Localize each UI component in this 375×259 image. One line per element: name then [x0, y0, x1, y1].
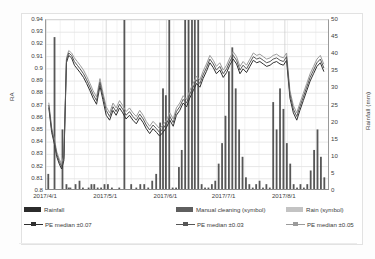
rainfall-bar: [107, 184, 109, 190]
series-line: [49, 55, 324, 169]
rainfall-bar: [214, 181, 216, 190]
rainfall-bar: [100, 188, 102, 190]
legend-item[interactable]: PE median ±0.07: [24, 221, 92, 228]
rainfall-bar: [289, 164, 291, 190]
y-tick-right: 10: [331, 151, 338, 158]
rainfall-bar: [123, 20, 125, 190]
y-tick-left: 0.85: [31, 124, 43, 131]
y-axis-title-left: RA: [8, 92, 15, 101]
legend-line-swatch: [24, 221, 43, 228]
y-tick-right: 15: [331, 134, 338, 141]
legend-line-swatch: [286, 221, 305, 228]
rainfall-bar: [238, 129, 240, 190]
rainfall-bar: [93, 184, 95, 190]
rainfall-bar: [88, 188, 90, 190]
rainfall-bar: [204, 188, 206, 190]
rainfall-bar: [165, 95, 167, 190]
rainfall-bar: [211, 184, 213, 190]
x-tick: 2017/8/1: [272, 192, 296, 199]
rainfall-bar: [279, 88, 281, 190]
y-tick-left: 0.9: [35, 63, 43, 70]
rainfall-bar: [276, 129, 278, 190]
rainfall-bar: [79, 181, 81, 190]
rainfall-bar: [310, 170, 312, 190]
rainfall-bar: [300, 184, 302, 190]
rainfall-bar: [313, 150, 315, 190]
rainfall-bar: [320, 157, 322, 190]
rainfall-bar: [283, 109, 285, 190]
y-tick-left: 0.81: [31, 173, 43, 180]
x-tick: 2017/6/1: [154, 192, 178, 199]
legend-item[interactable]: Rainfall: [24, 206, 64, 213]
y-tick-left: 0.83: [31, 149, 43, 156]
rainfall-bar: [172, 188, 174, 190]
rainfall-bar: [54, 37, 56, 190]
legend-item[interactable]: PE median ±0.05: [286, 221, 354, 228]
y-axis-ticks-left: 0.940.930.920.910.90.890.880.870.860.850…: [21, 18, 43, 190]
y-tick-left: 0.93: [31, 27, 43, 34]
rainfall-bar: [155, 174, 157, 190]
y-tick-left: 0.88: [31, 88, 43, 95]
rainfall-bar: [143, 184, 145, 190]
rainfall-bar: [262, 188, 264, 190]
rainfall-bar: [286, 143, 288, 190]
y-tick-right: 5: [331, 168, 334, 175]
rainfall-bar: [306, 184, 308, 190]
rainfall-bar: [296, 188, 298, 190]
rainfall-bar: [75, 184, 77, 190]
rainfall-bar: [255, 184, 257, 190]
y-tick-right: 0: [331, 186, 334, 193]
plot-canvas: [46, 20, 329, 190]
y-tick-left: 0.89: [31, 76, 43, 83]
rainfall-bar: [235, 88, 237, 190]
y-tick-left: 0.94: [31, 15, 43, 22]
y-axis-ticks-right: 50454035302520151050: [331, 18, 351, 190]
rainfall-bar: [194, 20, 196, 190]
rainfall-bar: [181, 150, 183, 190]
rainfall-bar: [151, 181, 153, 190]
legend-bar-swatch: [176, 207, 193, 212]
rainfall-bar: [147, 188, 149, 190]
rainfall-bar: [47, 174, 49, 190]
rainfall-bar: [111, 188, 113, 190]
rainfall-bar: [168, 20, 170, 190]
y-tick-left: 0.87: [31, 100, 43, 107]
series-line: [49, 53, 324, 167]
rainfall-bar: [175, 188, 177, 190]
y-tick-left: 0.86: [31, 112, 43, 119]
rainfall-bar: [265, 184, 267, 190]
chart-legend: RainfallManual cleaning (symbol)Rain (sy…: [24, 206, 360, 242]
rainfall-bar: [231, 47, 233, 190]
rainfall-bar: [104, 184, 106, 190]
y-tick-left: 0.92: [31, 39, 43, 46]
legend-item[interactable]: Rain (symbol): [286, 206, 344, 213]
legend-label: PE median ±0.05: [307, 221, 354, 228]
rainfall-bar: [162, 88, 164, 190]
rainfall-bar: [221, 143, 223, 190]
legend-item[interactable]: PE median ±0.03: [176, 221, 244, 228]
rainfall-bar: [323, 177, 325, 190]
rainfall-bar: [197, 20, 199, 190]
y-tick-left: 0.91: [31, 51, 43, 58]
rainfall-bar: [248, 184, 250, 190]
rainfall-bar: [208, 188, 210, 190]
y-tick-right: 25: [331, 100, 338, 107]
rainfall-bar: [303, 188, 305, 190]
rainfall-bar: [228, 71, 230, 190]
rainfall-bar: [317, 129, 319, 190]
rainfall-bar: [91, 184, 93, 190]
legend-label: PE median ±0.07: [45, 221, 92, 228]
y-tick-right: 20: [331, 117, 338, 124]
rainfall-bar: [245, 177, 247, 190]
legend-bar-swatch: [24, 207, 41, 212]
x-tick: 2017/4/1: [33, 192, 57, 199]
y-tick-right: 35: [331, 66, 338, 73]
y-tick-right: 45: [331, 32, 338, 39]
rainfall-bar: [135, 188, 137, 190]
rainfall-bar: [293, 184, 295, 190]
rainfall-bar: [97, 188, 99, 190]
rainfall-bar: [269, 188, 271, 190]
rainfall-bar: [272, 102, 274, 190]
legend-item[interactable]: Manual cleaning (symbol): [176, 206, 265, 213]
legend-label: PE median ±0.03: [197, 221, 244, 228]
